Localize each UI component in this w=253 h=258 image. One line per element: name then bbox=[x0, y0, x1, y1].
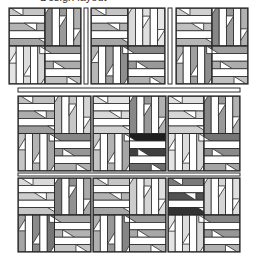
strip bbox=[137, 96, 144, 134]
strip bbox=[190, 46, 197, 84]
strip bbox=[168, 119, 204, 127]
strip bbox=[93, 185, 130, 192]
strip bbox=[67, 8, 74, 46]
strip bbox=[151, 96, 158, 134]
strip bbox=[55, 96, 62, 134]
strip bbox=[76, 178, 83, 215]
vertical-sashing bbox=[84, 8, 88, 84]
strip bbox=[204, 156, 240, 164]
strip bbox=[18, 104, 55, 112]
strip bbox=[55, 141, 92, 149]
quilt-block-r1c3 bbox=[176, 3, 248, 89]
strip bbox=[18, 185, 55, 192]
strip bbox=[113, 46, 120, 84]
strip bbox=[198, 46, 205, 84]
strip bbox=[40, 134, 47, 172]
strip bbox=[33, 134, 40, 172]
quilt-layout-diagram bbox=[0, 0, 253, 258]
strip bbox=[45, 54, 81, 62]
strip bbox=[9, 46, 16, 84]
strip bbox=[52, 8, 59, 46]
strip bbox=[204, 222, 240, 229]
strip bbox=[176, 31, 212, 39]
strip bbox=[130, 237, 167, 244]
strip bbox=[55, 156, 92, 164]
strip bbox=[143, 8, 150, 46]
strip bbox=[233, 178, 240, 215]
strip bbox=[168, 185, 204, 192]
strip bbox=[204, 96, 211, 134]
strip bbox=[25, 215, 32, 252]
strip bbox=[204, 178, 211, 215]
strip bbox=[218, 96, 225, 134]
strip bbox=[69, 96, 76, 134]
strip bbox=[59, 8, 66, 46]
vertical-sashing bbox=[168, 8, 172, 84]
horizontal-sashing bbox=[18, 88, 240, 92]
strip bbox=[100, 134, 107, 172]
strip bbox=[168, 215, 175, 252]
strip bbox=[55, 237, 92, 244]
quilt-block-r3c1 bbox=[18, 173, 91, 257]
strip bbox=[62, 96, 69, 134]
strip bbox=[226, 178, 233, 215]
strip bbox=[130, 96, 137, 134]
strip bbox=[241, 8, 248, 46]
strip bbox=[91, 31, 128, 39]
quilt-block-r2c3 bbox=[168, 91, 240, 176]
strip bbox=[182, 215, 189, 252]
strip bbox=[16, 46, 23, 84]
strip bbox=[176, 46, 183, 84]
strip bbox=[204, 237, 240, 244]
strip bbox=[18, 134, 25, 172]
strip bbox=[158, 8, 165, 46]
strip bbox=[176, 16, 212, 24]
strip bbox=[151, 178, 158, 215]
strip bbox=[219, 8, 226, 46]
strip bbox=[212, 69, 248, 77]
strip bbox=[211, 96, 218, 134]
strip bbox=[40, 215, 47, 252]
strip bbox=[100, 215, 107, 252]
horizontal-sashing bbox=[18, 173, 240, 176]
strip bbox=[190, 215, 197, 252]
strip bbox=[23, 46, 30, 84]
strip bbox=[115, 215, 122, 252]
strip bbox=[211, 178, 218, 215]
strip bbox=[31, 46, 38, 84]
strip bbox=[204, 141, 240, 149]
strip bbox=[168, 134, 175, 172]
strip bbox=[9, 16, 45, 24]
strip bbox=[182, 134, 189, 172]
strip bbox=[168, 104, 204, 112]
strip bbox=[175, 134, 182, 172]
strip bbox=[128, 69, 165, 77]
strip bbox=[62, 178, 69, 215]
strip bbox=[137, 178, 144, 215]
strip bbox=[74, 8, 81, 46]
strip bbox=[106, 46, 113, 84]
strip bbox=[98, 46, 105, 84]
quilt-block-r2c2 bbox=[93, 91, 166, 176]
strip bbox=[212, 54, 248, 62]
strip bbox=[128, 8, 135, 46]
strip bbox=[18, 200, 55, 207]
strip bbox=[144, 96, 151, 134]
strip bbox=[91, 46, 98, 84]
quilt-block-r1c1 bbox=[9, 3, 81, 89]
strip bbox=[130, 156, 167, 164]
strip bbox=[130, 141, 167, 149]
strip bbox=[93, 119, 130, 127]
strip bbox=[55, 222, 92, 229]
strip bbox=[45, 8, 52, 46]
strip bbox=[183, 46, 190, 84]
strip bbox=[91, 16, 128, 24]
strip bbox=[218, 178, 225, 215]
quilt-block-r2c1 bbox=[18, 91, 91, 176]
strip bbox=[84, 96, 91, 134]
strip bbox=[115, 134, 122, 172]
strip bbox=[150, 8, 157, 46]
strip bbox=[190, 134, 197, 172]
strip bbox=[93, 200, 130, 207]
strip bbox=[93, 104, 130, 112]
